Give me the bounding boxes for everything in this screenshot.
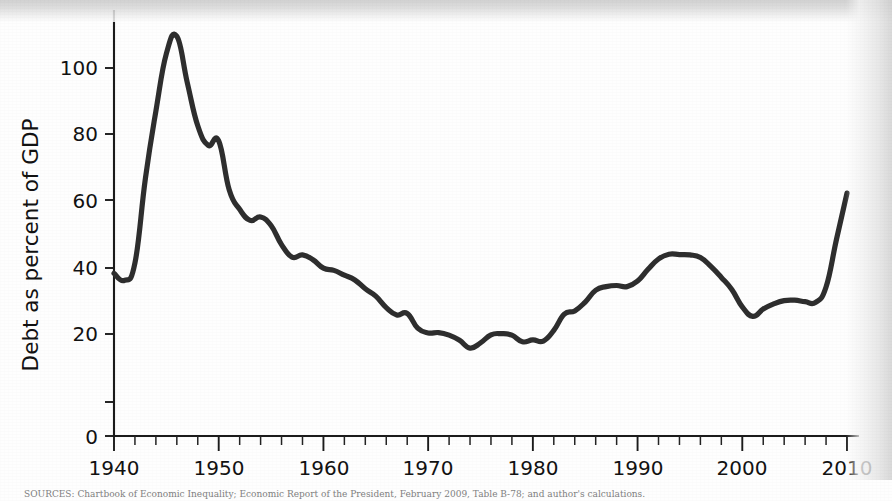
x-tick-label-1970: 1970 — [403, 456, 454, 480]
y-axis-title: Debt as percent of GDP — [18, 119, 43, 372]
x-tick-label-2010: 2010 — [822, 456, 873, 480]
y-tick-label-20: 20 — [73, 322, 98, 346]
y-tick-label-40: 40 — [73, 256, 98, 280]
source-note: SOURCES: Chartbook of Economic Inequalit… — [24, 489, 884, 500]
x-tick-label-1950: 1950 — [194, 456, 245, 480]
debt-gdp-line-chart: Debt as percent of GDP 100 80 60 40 20 0… — [0, 0, 892, 501]
y-tick-label-100: 100 — [60, 56, 98, 80]
y-tick-label-60: 60 — [73, 189, 98, 213]
y-tick-label-80: 80 — [73, 122, 98, 146]
debt-series-line — [114, 34, 847, 348]
y-axis-ticks — [105, 68, 114, 436]
x-tick-label-1980: 1980 — [508, 456, 559, 480]
x-tick-label-1960: 1960 — [299, 456, 350, 480]
x-tick-label-1990: 1990 — [613, 456, 664, 480]
figure-container: Debt as percent of GDP 100 80 60 40 20 0… — [0, 0, 892, 501]
y-tick-label-0: 0 — [85, 425, 98, 449]
x-tick-label-1940: 1940 — [89, 456, 140, 480]
x-tick-label-2000: 2000 — [717, 456, 768, 480]
x-axis-ticks — [114, 436, 847, 451]
